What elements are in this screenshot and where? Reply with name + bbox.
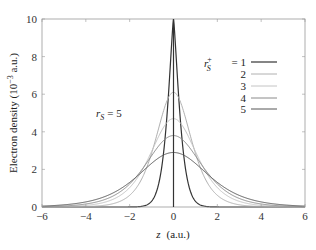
legend-label-2: 2 [241, 68, 247, 80]
x-axis-label: z(a.u.) [155, 228, 190, 241]
y-tick-label: 0 [32, 201, 38, 213]
legend: r+S = 12345 [204, 55, 277, 115]
x-tick-label: 0 [171, 210, 177, 222]
y-axis-label: Electron density (10−3 a.u.) [6, 53, 20, 173]
legend-label-3: 3 [241, 80, 247, 92]
x-tick-label: 2 [215, 210, 221, 222]
rs-annotation: rS= 5 [96, 107, 122, 122]
x-tick-label: −4 [80, 210, 92, 222]
electron-density-chart: −6−4−202460246810 Electron density (10−3… [0, 0, 316, 250]
x-tick-label: −2 [124, 210, 136, 222]
y-tick-label: 2 [32, 163, 38, 175]
x-tick-label: 6 [302, 210, 308, 222]
y-tick-label: 10 [26, 13, 38, 25]
y-tick-label: 6 [32, 88, 38, 100]
x-tick-label: −6 [36, 210, 48, 222]
y-tick-label: 8 [32, 51, 38, 63]
legend-label-1: = 1 [232, 56, 246, 68]
y-tick-label: 4 [32, 126, 38, 138]
legend-title: r+S [204, 55, 212, 73]
legend-label-5: 5 [241, 103, 247, 115]
x-tick-label: 4 [258, 210, 264, 222]
